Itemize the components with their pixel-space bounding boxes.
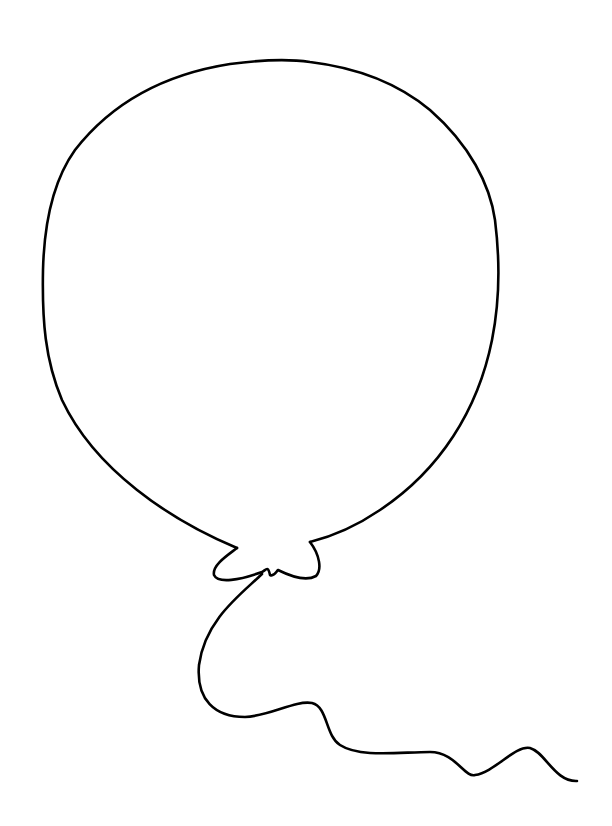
balloon-string [199,574,577,781]
balloon-drawing [0,0,612,826]
balloon-knot [214,542,320,580]
balloon-body-outline [43,60,499,548]
